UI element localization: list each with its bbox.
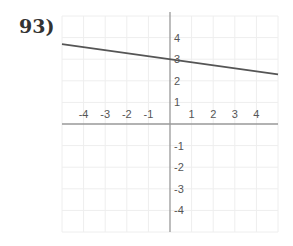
x-tick-label: 4 [253,108,259,120]
x-tick-label: -4 [79,108,89,120]
x-tick-label: 2 [210,108,216,120]
y-tick-label: 2 [174,75,180,87]
y-tick-label: -4 [174,204,184,216]
y-tick-label: -3 [174,183,184,195]
x-tick-label: -2 [122,108,132,120]
y-tick-label: 4 [174,32,180,44]
coordinate-plane: -4-3-2-112344321-1-2-3-4 [0,0,293,246]
y-tick-label: -1 [174,140,184,152]
axes [62,12,278,232]
y-tick-label: 1 [174,96,180,108]
y-tick-label: -2 [174,161,184,173]
x-tick-label: -3 [100,108,110,120]
x-tick-label: 1 [189,108,195,120]
x-tick-label: -1 [144,108,154,120]
x-tick-label: 3 [232,108,238,120]
